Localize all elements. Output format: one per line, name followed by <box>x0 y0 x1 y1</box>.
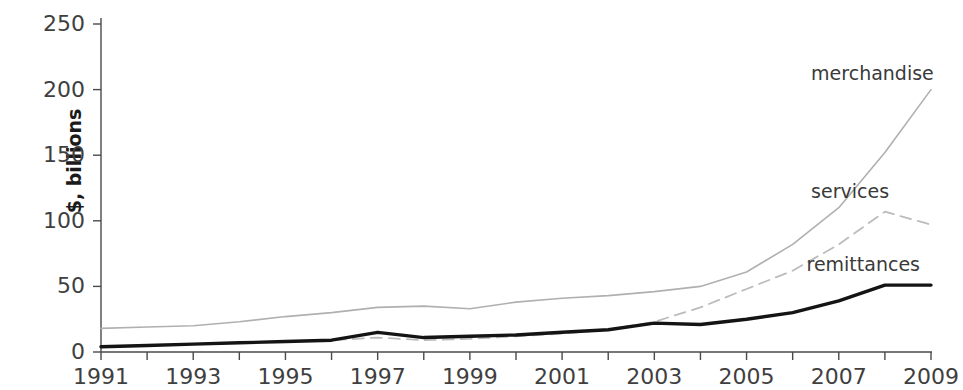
x-tick-label: 2005 <box>702 366 792 388</box>
merchandise-label: merchandise <box>811 64 934 83</box>
x-tick-label: 1999 <box>425 366 515 388</box>
series-lines <box>101 90 931 347</box>
y-tick-label: 50 <box>25 275 85 297</box>
services-label: services <box>811 182 889 201</box>
y-tick-label: 200 <box>25 79 85 101</box>
series-line-merchandise <box>101 90 931 329</box>
x-tick-label: 2009 <box>886 366 963 388</box>
y-tick-label: 100 <box>25 210 85 232</box>
x-tick-label: 2001 <box>517 366 607 388</box>
series-line-remittances <box>101 285 931 347</box>
remittances-label: remittances <box>807 255 921 274</box>
x-tick-label: 1993 <box>148 366 238 388</box>
x-tick-label: 1997 <box>333 366 423 388</box>
y-tick-label: 250 <box>25 13 85 35</box>
y-tick-label: 150 <box>25 144 85 166</box>
x-tick-label: 1995 <box>240 366 330 388</box>
series-line-services <box>101 212 931 347</box>
x-tick-label: 1991 <box>56 366 146 388</box>
x-tick-label: 2007 <box>794 366 884 388</box>
y-tick-label: 0 <box>25 341 85 363</box>
x-tick-label: 2003 <box>609 366 699 388</box>
